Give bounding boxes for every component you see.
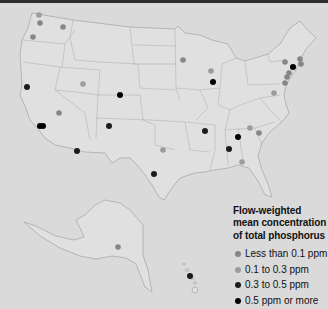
site-dot bbox=[271, 90, 277, 96]
site-dot bbox=[208, 68, 214, 74]
legend-label: 0.3 to 0.5 ppm bbox=[245, 279, 309, 290]
site-dot bbox=[151, 171, 157, 177]
site-dot bbox=[290, 64, 296, 70]
site-dot bbox=[37, 20, 43, 26]
legend-title: Flow-weighted mean concentration of tota… bbox=[233, 205, 328, 242]
site-dot bbox=[284, 74, 290, 80]
site-dot bbox=[36, 12, 42, 18]
site-dot bbox=[210, 79, 216, 85]
legend-item-0-3-to-0-5: 0.3 to 0.5 ppm bbox=[233, 277, 328, 293]
legend-title-line: mean concentration bbox=[233, 217, 328, 229]
site-dot bbox=[282, 80, 288, 86]
legend-title-line: Flow-weighted bbox=[233, 205, 328, 217]
lower-48-outline bbox=[20, 13, 316, 200]
legend: Flow-weighted mean concentration of tota… bbox=[233, 205, 328, 309]
legend-label: 0.1 to 0.3 ppm bbox=[245, 264, 309, 275]
site-dot bbox=[115, 244, 121, 250]
site-dot bbox=[74, 148, 80, 154]
site-dot bbox=[298, 61, 304, 67]
legend-label: 0.5 ppm or more bbox=[245, 295, 318, 306]
legend-item-less-than-0-1: Less than 0.1 ppm bbox=[233, 246, 328, 262]
site-dot bbox=[256, 130, 262, 136]
site-dot bbox=[160, 147, 166, 153]
site-dot bbox=[60, 24, 66, 30]
site-dot bbox=[282, 59, 288, 65]
site-dot bbox=[56, 110, 62, 116]
site-dot bbox=[247, 125, 253, 131]
site-dot bbox=[117, 92, 123, 98]
legend-item-0-1-to-0-3: 0.1 to 0.3 ppm bbox=[233, 262, 328, 278]
alaska-outline bbox=[24, 200, 152, 292]
dot-icon bbox=[235, 282, 241, 288]
dot-icon bbox=[235, 298, 241, 304]
site-dot bbox=[30, 34, 36, 40]
site-dot bbox=[239, 159, 245, 165]
site-dot bbox=[187, 273, 193, 279]
dot-icon bbox=[235, 267, 241, 273]
dot-icon bbox=[235, 251, 241, 257]
site-dot bbox=[202, 128, 208, 134]
site-dot bbox=[226, 146, 232, 152]
site-dot bbox=[40, 123, 46, 129]
site-dot bbox=[180, 57, 186, 63]
site-dot bbox=[235, 134, 241, 140]
site-dot bbox=[24, 84, 30, 90]
legend-title-line: of total phosphorus bbox=[233, 230, 328, 242]
legend-item-0-5-or-more: 0.5 ppm or more bbox=[233, 293, 328, 309]
site-dot bbox=[297, 56, 303, 62]
site-dot bbox=[106, 123, 112, 129]
site-dot bbox=[80, 81, 86, 87]
legend-label: Less than 0.1 ppm bbox=[245, 248, 327, 259]
